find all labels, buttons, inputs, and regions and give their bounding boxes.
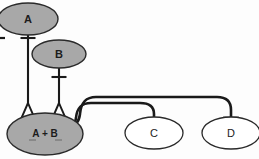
node-c[interactable]: C [125,117,183,149]
node-b-label: B [55,48,63,60]
edge-b-to-complex [52,66,67,119]
node-d[interactable]: D [202,117,259,149]
node-complex-ab[interactable]: A + B [7,113,83,155]
diagram-canvas: A B A + B C D [0,0,259,159]
node-a-label: A [24,13,32,25]
node-b[interactable]: B [32,40,86,68]
node-a[interactable]: A [0,3,58,35]
edge-a-to-complex [21,30,36,119]
node-complex-ab-label: A + B [32,128,57,139]
node-c-label: C [150,127,158,139]
network-diagram: A B A + B C D [0,0,259,159]
node-d-label: D [227,127,235,139]
